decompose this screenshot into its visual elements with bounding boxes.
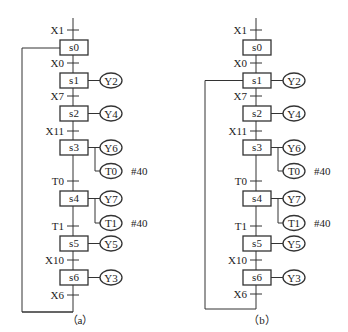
transition-x1: X1 bbox=[51, 24, 79, 36]
transition-x0: X0 bbox=[51, 57, 79, 69]
transition-x10: X10 bbox=[45, 254, 79, 266]
svg-text:Y3: Y3 bbox=[104, 272, 118, 284]
svg-text:X11: X11 bbox=[45, 125, 64, 137]
step-s2: s2 Y4 bbox=[243, 106, 305, 121]
svg-text:#40: #40 bbox=[131, 165, 148, 177]
svg-text:X0: X0 bbox=[234, 57, 248, 69]
svg-text:s6: s6 bbox=[252, 271, 262, 283]
svg-text:s1: s1 bbox=[69, 74, 79, 86]
svg-text:#40: #40 bbox=[131, 217, 148, 229]
svg-text:s3: s3 bbox=[69, 141, 79, 153]
svg-text:T0: T0 bbox=[288, 165, 301, 177]
svg-text:T1: T1 bbox=[52, 220, 64, 232]
svg-text:T0: T0 bbox=[105, 165, 118, 177]
svg-text:X10: X10 bbox=[228, 254, 247, 266]
svg-text:Y5: Y5 bbox=[104, 238, 118, 250]
svg-text:s1: s1 bbox=[252, 74, 262, 86]
svg-text:s2: s2 bbox=[69, 107, 79, 119]
svg-text:s3: s3 bbox=[252, 141, 262, 153]
svg-text:T0: T0 bbox=[235, 175, 248, 187]
svg-text:s2: s2 bbox=[252, 107, 262, 119]
step-s0: s0 bbox=[243, 40, 271, 55]
svg-text:Y6: Y6 bbox=[104, 142, 118, 154]
svg-text:X11: X11 bbox=[228, 125, 247, 137]
svg-text:Y4: Y4 bbox=[104, 108, 118, 120]
step-s0: s0 bbox=[60, 40, 88, 55]
transition-t1: T1 bbox=[235, 220, 262, 232]
svg-text:Y4: Y4 bbox=[287, 108, 301, 120]
caption-a: （a） bbox=[67, 314, 94, 326]
svg-text:Y2: Y2 bbox=[104, 75, 117, 87]
svg-text:X6: X6 bbox=[234, 288, 248, 300]
sfc-diagram-b: X1 s0 X0 s1 Y2 X7 s2 Y4 bbox=[205, 18, 331, 326]
step-s6: s6 Y3 bbox=[243, 270, 305, 285]
transition-x0: X0 bbox=[234, 57, 262, 69]
svg-text:Y5: Y5 bbox=[287, 238, 301, 250]
svg-text:X1: X1 bbox=[234, 24, 247, 36]
svg-text:T1: T1 bbox=[288, 217, 300, 229]
transition-x1: X1 bbox=[234, 24, 262, 36]
svg-text:Y6: Y6 bbox=[287, 142, 301, 154]
svg-text:#40: #40 bbox=[314, 217, 331, 229]
svg-text:Y3: Y3 bbox=[287, 272, 301, 284]
svg-text:X0: X0 bbox=[51, 57, 65, 69]
svg-text:s4: s4 bbox=[69, 192, 79, 204]
transition-x7: X7 bbox=[51, 90, 79, 102]
svg-text:s0: s0 bbox=[252, 41, 262, 53]
transition-x11: X11 bbox=[45, 125, 79, 137]
svg-text:X7: X7 bbox=[51, 90, 65, 102]
step-s1: s1 Y2 bbox=[60, 73, 122, 88]
transition-x11: X11 bbox=[228, 125, 262, 137]
step-s5: s5 Y5 bbox=[243, 236, 305, 251]
caption-b: （b） bbox=[248, 314, 276, 326]
svg-text:s6: s6 bbox=[69, 271, 79, 283]
svg-text:T1: T1 bbox=[235, 220, 247, 232]
svg-text:s0: s0 bbox=[69, 41, 79, 53]
transition-x10: X10 bbox=[228, 254, 262, 266]
svg-text:Y7: Y7 bbox=[104, 193, 118, 205]
svg-text:X7: X7 bbox=[234, 90, 248, 102]
step-s2: s2 Y4 bbox=[60, 106, 122, 121]
svg-text:X10: X10 bbox=[45, 254, 64, 266]
svg-text:X1: X1 bbox=[51, 24, 64, 36]
svg-text:X6: X6 bbox=[51, 289, 65, 301]
step-s6: s6 Y3 bbox=[60, 270, 122, 285]
svg-text:s5: s5 bbox=[252, 237, 262, 249]
svg-text:T0: T0 bbox=[52, 175, 65, 187]
step-s1: s1 Y2 bbox=[243, 73, 305, 88]
svg-text:#40: #40 bbox=[314, 165, 331, 177]
svg-text:s5: s5 bbox=[69, 237, 79, 249]
sfc-diagram-a: X1 s0 X0 s1 Y2 X7 s2 Y4 bbox=[22, 18, 148, 326]
svg-text:Y7: Y7 bbox=[287, 193, 301, 205]
transition-x6: X6 bbox=[51, 289, 79, 301]
transition-x6: X6 bbox=[234, 288, 262, 300]
transition-t0: T0 bbox=[52, 175, 79, 187]
step-s5: s5 Y5 bbox=[60, 236, 122, 251]
sfc-diagrams: X1 s0 X0 s1 Y2 X7 s2 Y4 bbox=[0, 0, 348, 332]
svg-text:T1: T1 bbox=[105, 217, 117, 229]
svg-text:s4: s4 bbox=[252, 192, 262, 204]
svg-text:Y2: Y2 bbox=[287, 75, 300, 87]
transition-t0: T0 bbox=[235, 175, 262, 187]
transition-t1: T1 bbox=[52, 220, 79, 232]
transition-x7: X7 bbox=[234, 90, 262, 102]
